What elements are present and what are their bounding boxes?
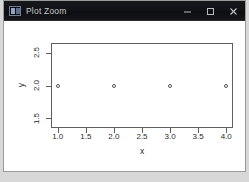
window-controls — [176, 1, 245, 21]
y-tick-mark — [46, 53, 51, 54]
x-tick-label-text: 1.5 — [80, 132, 91, 141]
x-tick-label: 1.0 — [45, 132, 71, 143]
x-tick-label: 2.5 — [129, 132, 155, 143]
data-point — [56, 84, 60, 88]
plot-frame — [51, 43, 233, 128]
x-axis-label: x — [51, 146, 233, 156]
x-tick-label: 3.5 — [185, 132, 211, 143]
x-tick-label: 2.0 — [101, 132, 127, 143]
x-tick-label-text: 2.5 — [136, 132, 147, 141]
y-axis-label: y — [14, 77, 28, 93]
y-tick-label-text: 1.5 — [33, 113, 42, 124]
window-title: Plot Zoom — [26, 6, 176, 16]
x-tick-label-text: 3.5 — [193, 132, 204, 141]
minimize-icon[interactable] — [176, 1, 199, 21]
y-tick-label-text: 2.0 — [33, 80, 42, 91]
plot-window-icon — [9, 6, 21, 16]
y-tick-label: 2.5 — [30, 46, 44, 60]
x-tick-label: 4.0 — [213, 132, 239, 143]
data-point — [168, 84, 172, 88]
x-tick-label-text: 1.0 — [52, 132, 63, 141]
y-tick-label: 2.0 — [30, 79, 44, 93]
window-titlebar[interactable]: Plot Zoom — [4, 1, 245, 21]
x-tick-label-text: 4.0 — [221, 132, 232, 141]
close-icon[interactable] — [222, 1, 245, 21]
y-tick-mark — [46, 86, 51, 87]
x-tick-label: 1.5 — [73, 132, 99, 143]
desktop-background: Plot Zoom 1.52.02.5 1.01.52.02.53.03.54.… — [0, 0, 249, 182]
x-tick-label-text: 2.0 — [108, 132, 119, 141]
maximize-icon[interactable] — [199, 1, 222, 21]
x-tick-label-text: 3.0 — [165, 132, 176, 141]
plot-canvas[interactable]: 1.52.02.5 1.01.52.02.53.03.54.0 y x — [4, 21, 245, 171]
y-tick-label: 1.5 — [30, 111, 44, 125]
data-point — [112, 84, 116, 88]
y-tick-mark — [46, 118, 51, 119]
plot-zoom-window: Plot Zoom 1.52.02.5 1.01.52.02.53.03.54.… — [3, 0, 246, 172]
y-tick-label-text: 2.5 — [33, 47, 42, 58]
data-point — [224, 84, 228, 88]
x-tick-label: 3.0 — [157, 132, 183, 143]
y-axis-label-text: y — [16, 83, 26, 87]
